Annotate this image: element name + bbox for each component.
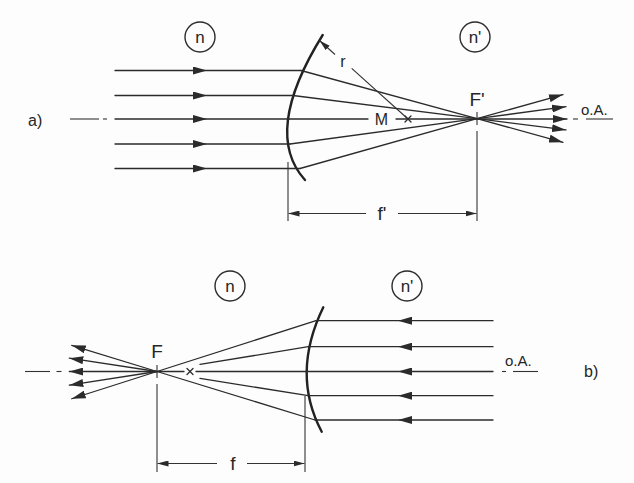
refracting-surface-b: [307, 307, 324, 431]
diverging-ray: [72, 372, 157, 399]
medium-n-marker-a: n: [185, 22, 215, 52]
diverging-ray: [72, 345, 157, 371]
ray-bundle-a: [115, 71, 567, 169]
diverging-ray: [69, 358, 157, 371]
image-focus-label: F': [469, 89, 484, 110]
panel-a: a) n n' r M F' f': [28, 22, 613, 224]
diverging-ray: [477, 95, 563, 119]
panel-b-label: b): [584, 363, 598, 380]
center-of-curvature-label: M: [375, 111, 388, 128]
medium-n-prime-marker-a: n': [460, 22, 490, 52]
diverging-ray: [69, 372, 157, 386]
radius-arrow: [320, 41, 336, 55]
focal-length-label: f: [230, 453, 236, 474]
optical-axis-label: o.A.: [581, 101, 608, 118]
medium-n-prime-label: n': [401, 277, 414, 296]
object-focus-label: F: [151, 341, 163, 362]
focal-length-label: f': [378, 203, 387, 224]
center-of-curvature-mark: [187, 369, 193, 375]
refracted-ray: [200, 347, 308, 365]
medium-n-prime-marker-b: n': [392, 271, 422, 301]
medium-n-label: n: [195, 28, 204, 47]
refracting-surface-a: [287, 35, 323, 180]
medium-n-prime-label: n': [469, 28, 482, 47]
optical-axis-label: o.A.: [505, 352, 532, 369]
refracted-ray: [300, 119, 477, 169]
refracted-ray: [200, 378, 308, 395]
diverging-ray: [477, 107, 566, 119]
diverging-ray: [477, 119, 563, 143]
radius-label: r: [340, 53, 346, 70]
panel-a-label: a): [28, 112, 42, 129]
refracted-ray: [301, 71, 477, 119]
refracted-ray: [157, 321, 316, 372]
ray-bundle-b: [69, 321, 493, 420]
diverging-ray: [477, 119, 566, 130]
panel-b: n n' F f o.A. b): [25, 271, 598, 474]
optics-diagram: a) n n' r M F' f': [0, 0, 634, 483]
medium-n-marker-b: n: [215, 271, 245, 301]
refracted-ray: [157, 372, 315, 421]
medium-n-label: n: [225, 277, 234, 296]
